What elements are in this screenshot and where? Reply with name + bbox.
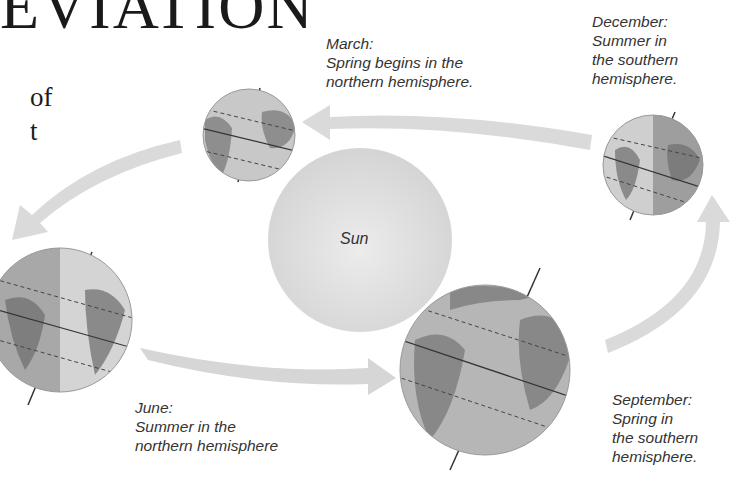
- orbit-arrow-march-to-june: [12, 140, 182, 240]
- label-june: June: Summer in the northern hemisphere: [135, 398, 278, 455]
- label-september: September: Spring in the southern hemisp…: [612, 390, 698, 466]
- sun-label: Sun: [340, 230, 368, 248]
- orbit-arrow-september-to-december: [605, 195, 730, 353]
- label-march: March: Spring begins in the northern hem…: [326, 34, 473, 91]
- orbit-arrow-june-to-september: [140, 348, 396, 395]
- earth-june-icon: [0, 240, 140, 410]
- earth-march-icon: [200, 88, 300, 182]
- earth-december-icon: [600, 110, 710, 220]
- label-december: December: Summer in the southern hemisph…: [592, 12, 678, 88]
- orbit-arrow-dec-to-march: [302, 105, 592, 150]
